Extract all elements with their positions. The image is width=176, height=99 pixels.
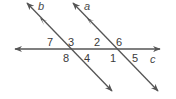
line-label-a: a xyxy=(84,0,90,12)
angle-4: 4 xyxy=(84,52,90,64)
angle-1: 1 xyxy=(110,52,116,64)
line-b-parallel-arrow-icon xyxy=(40,18,47,25)
transversal-diagram: b a c 7 3 8 4 2 6 1 5 xyxy=(0,0,176,99)
angle-7: 7 xyxy=(47,36,53,48)
angle-5: 5 xyxy=(132,52,138,64)
angle-8: 8 xyxy=(63,52,69,64)
angle-2: 2 xyxy=(94,36,100,48)
angle-3: 3 xyxy=(68,36,74,48)
line-label-c: c xyxy=(150,53,156,65)
line-label-b: b xyxy=(38,0,44,12)
diagram-canvas: b a c 7 3 8 4 2 6 1 5 xyxy=(0,0,176,99)
angle-6: 6 xyxy=(116,36,122,48)
